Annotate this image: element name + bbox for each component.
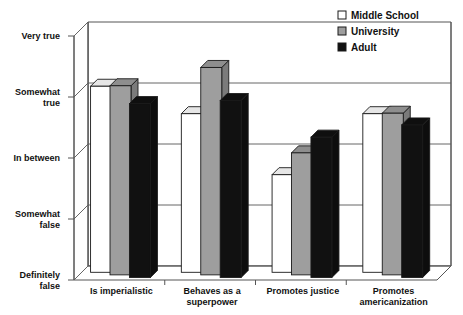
bar-side-face [332, 130, 339, 277]
y-axis-tick-label: Somewhat [15, 87, 60, 97]
x-axis-category-label: superpower [187, 297, 239, 307]
bar-front-face [292, 153, 313, 275]
legend-label: Adult [351, 42, 377, 53]
y-axis-tick-label: Definitely [19, 270, 60, 280]
bar-front-face [220, 101, 241, 278]
bar-front-face [402, 125, 423, 278]
bar-chart-3d: Very trueSomewhattrueIn betweenSomewhatf… [0, 0, 463, 315]
x-axis-category-label: Promotes [373, 286, 415, 296]
bar-side-face [423, 118, 430, 277]
y-axis-tick-label: Somewhat [15, 209, 60, 219]
bar [402, 118, 430, 278]
y-axis-labels: Very trueSomewhattrueIn betweenSomewhatf… [13, 31, 60, 291]
bar-side-face [241, 94, 248, 278]
y-axis-tick-label: true [43, 98, 60, 108]
bar-front-face [91, 86, 112, 272]
x-axis-category-label: Promotes justice [267, 286, 340, 296]
x-axis-category-label: americanization [360, 297, 428, 307]
x-axis-category-labels: Is imperialisticBehaves as asuperpowerPr… [90, 286, 428, 307]
y-axis-tick-label: false [39, 281, 60, 291]
bar [129, 97, 157, 278]
bar-front-face [110, 86, 131, 275]
bar-front-face [272, 175, 293, 273]
bar [220, 94, 248, 278]
bar-side-face [150, 97, 157, 278]
bar-front-face [382, 113, 403, 275]
y-axis-tick-label: Very true [21, 31, 60, 41]
legend-swatch [338, 11, 346, 19]
bar [311, 130, 339, 277]
x-axis-category-label: Is imperialistic [90, 286, 153, 296]
y-axis-tick-label: false [39, 220, 60, 230]
legend-label: Middle School [351, 10, 419, 21]
bar-front-face [181, 114, 202, 273]
legend-swatch [338, 43, 346, 51]
x-axis-category-label: Behaves as a [184, 286, 242, 296]
legend-swatch [338, 27, 346, 35]
bar-front-face [363, 114, 384, 273]
legend-label: University [351, 26, 400, 37]
bar-front-face [129, 104, 150, 278]
y-axis-tick-label: In between [13, 153, 60, 163]
bar-front-face [311, 137, 332, 277]
bar-front-face [201, 67, 222, 274]
chart-container: Very trueSomewhattrueIn betweenSomewhatf… [0, 0, 463, 315]
